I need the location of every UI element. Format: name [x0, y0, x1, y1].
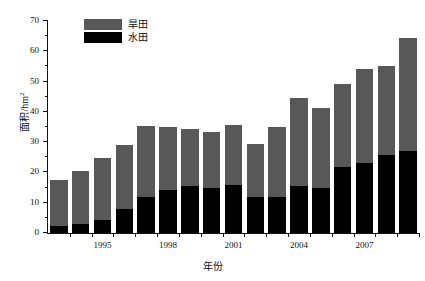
y-axis-tick: 10 [43, 202, 48, 203]
bar-segment-paddy-field [94, 220, 111, 233]
bar-segment-paddy-field [290, 186, 307, 233]
bar-2002 [247, 144, 264, 233]
bar-1997 [137, 126, 154, 233]
x-axis-tick [266, 233, 267, 237]
bar-segment-dry-field [225, 125, 242, 185]
y-axis-minor-tick [45, 217, 48, 218]
y-axis-tick: 50 [43, 81, 48, 82]
bar-segment-dry-field [399, 38, 416, 152]
y-axis-tick-label: 40 [30, 106, 39, 115]
bar-segment-paddy-field [312, 188, 329, 233]
bar-segment-dry-field [378, 66, 395, 155]
y-axis-tick-label: 0 [35, 228, 40, 237]
bar-segment-dry-field [268, 127, 285, 196]
y-axis-title-text: 面积/hm [19, 96, 30, 132]
bar-segment-dry-field [290, 98, 307, 186]
y-axis-tick-label: 50 [30, 76, 39, 85]
bar-segment-paddy-field [159, 190, 176, 233]
x-axis-tick [288, 233, 289, 237]
bar-segment-dry-field [334, 84, 351, 167]
bar-segment-dry-field [116, 145, 133, 210]
bar-2003 [268, 127, 285, 233]
bar-segment-paddy-field [334, 167, 351, 233]
bar-2000 [203, 132, 220, 233]
x-axis-tick-label: 1995 [94, 241, 112, 250]
y-axis-tick: 20 [43, 171, 48, 172]
y-axis-minor-tick [45, 96, 48, 97]
x-axis-tick [223, 233, 224, 237]
bar-segment-dry-field [203, 132, 220, 187]
legend-swatch-dry-field [84, 19, 122, 30]
bar-2001 [225, 125, 242, 233]
bar-segment-paddy-field [50, 226, 67, 233]
x-axis-tick [157, 233, 158, 237]
x-axis-tick [310, 233, 311, 237]
x-axis-tick [244, 233, 245, 237]
x-axis-line [47, 233, 419, 234]
bar-segment-paddy-field [181, 186, 198, 233]
y-axis-tick-label: 20 [30, 167, 39, 176]
y-axis-tick: 60 [43, 50, 48, 51]
y-axis-tick: 70 [43, 20, 48, 21]
legend-swatch-paddy-field [84, 32, 122, 43]
bar-segment-paddy-field [203, 188, 220, 233]
y-axis-tick: 40 [43, 111, 48, 112]
legend-item: 水田 [84, 32, 148, 43]
bar-1999 [181, 129, 198, 233]
bar-segment-paddy-field [72, 224, 89, 233]
bar-segment-paddy-field [378, 155, 395, 233]
x-axis-tick [419, 233, 420, 237]
bar-segment-dry-field [247, 144, 264, 197]
bar-2006 [334, 84, 351, 233]
bar-segment-dry-field [137, 126, 154, 197]
x-axis-tick [113, 233, 114, 237]
bar-segment-dry-field [356, 69, 373, 163]
bar-segment-paddy-field [247, 197, 264, 233]
x-axis-tick [375, 233, 376, 237]
x-axis-tick-label: 2001 [225, 241, 243, 250]
bar-segment-paddy-field [356, 163, 373, 233]
bar-segment-paddy-field [137, 197, 154, 233]
x-axis-tick-label: 2004 [290, 241, 308, 250]
x-axis-tick [397, 233, 398, 237]
bar-2007 [356, 69, 373, 233]
bar-segment-dry-field [94, 158, 111, 220]
y-axis-tick-label: 30 [30, 137, 39, 146]
legend-item-label: 旱田 [128, 19, 148, 30]
y-axis-tick-label: 10 [30, 197, 39, 206]
plot-area: 01020304050607019951998200120042007 [48, 21, 419, 233]
y-axis-minor-tick [45, 65, 48, 66]
y-axis-title-superscript: 2 [18, 92, 26, 96]
x-axis-tick [179, 233, 180, 237]
bar-segment-dry-field [50, 180, 67, 226]
bar-1995 [94, 158, 111, 233]
bar-1998 [159, 127, 176, 233]
bar-segment-paddy-field [225, 185, 242, 233]
bar-1994 [72, 171, 89, 233]
y-axis-tick-label: 60 [30, 46, 39, 55]
x-axis-title: 年份 [0, 258, 425, 273]
x-axis-tick [70, 233, 71, 237]
bar-2004 [290, 98, 307, 233]
stacked-bar-chart: 面积/hm2 010203040506070199519982001200420… [0, 0, 425, 281]
bar-segment-dry-field [181, 129, 198, 186]
bar-2005 [312, 108, 329, 233]
y-axis-title: 面积/hm2 [16, 92, 31, 131]
bar-1996 [116, 145, 133, 233]
x-axis-tick [92, 233, 93, 237]
legend-item-label: 水田 [128, 32, 148, 43]
bar-segment-dry-field [159, 127, 176, 190]
y-axis-minor-tick [45, 187, 48, 188]
y-axis-minor-tick [45, 156, 48, 157]
bar-segment-paddy-field [116, 209, 133, 233]
y-axis-minor-tick [45, 35, 48, 36]
x-axis-tick [135, 233, 136, 237]
bar-segment-paddy-field [399, 151, 416, 233]
legend-item: 旱田 [84, 19, 148, 30]
bar-2008 [378, 66, 395, 233]
y-axis-tick-label: 70 [30, 16, 39, 25]
x-axis-tick-label: 1998 [159, 241, 177, 250]
y-axis-tick: 30 [43, 141, 48, 142]
x-axis-tick [354, 233, 355, 237]
bar-segment-paddy-field [268, 197, 285, 233]
